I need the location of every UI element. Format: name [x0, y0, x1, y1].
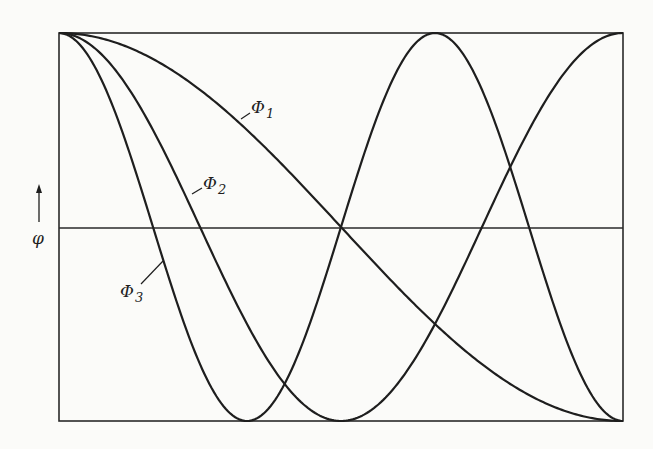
- phi3-subscript: 3: [135, 290, 143, 305]
- leader-line-phi3: [141, 261, 163, 284]
- svg-text:Φ1: Φ1: [251, 97, 274, 121]
- leader-line-phi1: [241, 113, 250, 119]
- arrow-head-icon: [36, 184, 42, 193]
- mode-shape-diagram: φ Φ1 Φ2 Φ3: [0, 0, 653, 449]
- svg-text:Φ3: Φ3: [120, 281, 143, 305]
- y-axis-label: φ: [32, 228, 44, 248]
- label-phi3: Φ3: [120, 261, 163, 305]
- phi2-symbol: Φ: [203, 173, 217, 193]
- phi1-subscript: 1: [266, 106, 274, 121]
- curve-phi3: [59, 33, 623, 421]
- leader-line-phi2: [192, 188, 202, 194]
- phi2-subscript: 2: [217, 182, 226, 197]
- y-axis-label-group: φ: [32, 184, 44, 248]
- mode-curves: [59, 33, 623, 421]
- svg-text:Φ2: Φ2: [203, 173, 226, 197]
- phi1-symbol: Φ: [251, 97, 265, 117]
- label-phi2: Φ2: [192, 173, 226, 197]
- label-phi1: Φ1: [241, 97, 274, 121]
- phi3-symbol: Φ: [120, 281, 134, 301]
